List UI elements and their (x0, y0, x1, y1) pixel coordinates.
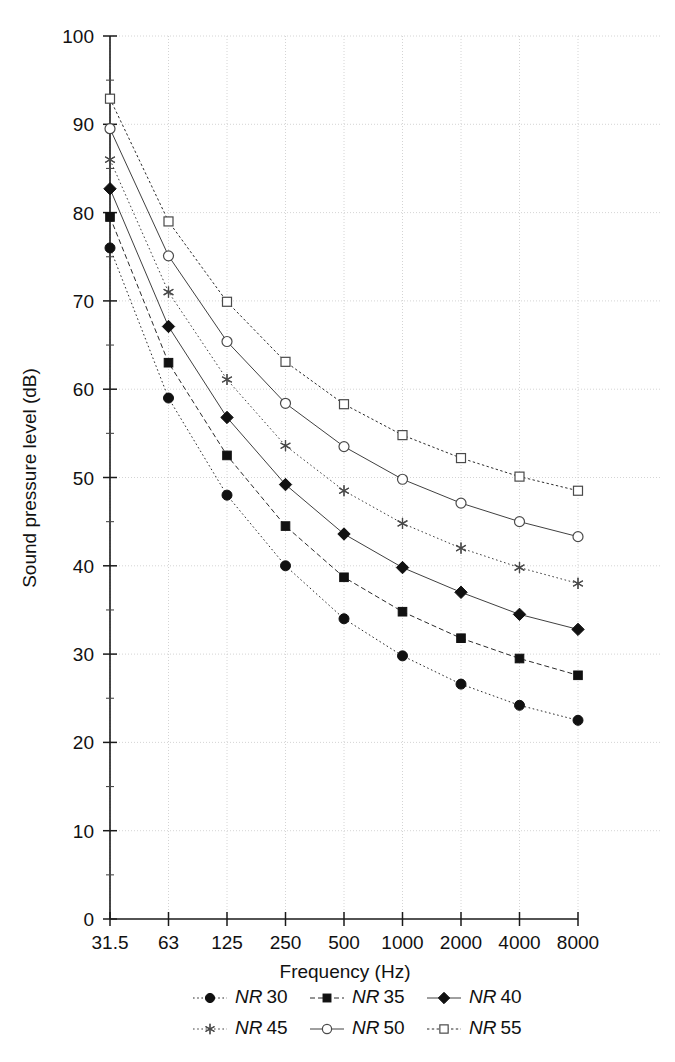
x-tick-label: 500 (328, 932, 360, 953)
data-point-marker (222, 374, 232, 385)
y-tick-label: 70 (73, 291, 94, 312)
data-point-marker (104, 183, 116, 195)
data-point-marker (322, 1024, 331, 1033)
x-tick-label: 63 (158, 932, 179, 953)
data-point-marker (340, 400, 349, 409)
data-point-marker (515, 700, 525, 710)
x-axis-title: Frequency (Hz) (280, 961, 411, 982)
data-point-marker (105, 124, 115, 134)
data-point-marker (457, 634, 466, 643)
legend-label: NR35 (352, 986, 405, 1007)
legend-item-nr-50[interactable]: NR50 (310, 1017, 405, 1038)
x-tick-label: 8000 (557, 932, 599, 953)
data-point-marker (573, 532, 583, 542)
x-tick-label: 1000 (381, 932, 423, 953)
y-axis-title: Sound pressure level (dB) (19, 368, 40, 588)
data-point-marker (398, 474, 408, 484)
legend-label-value: 40 (500, 986, 521, 1007)
legend-label-prefix: NR (235, 1017, 263, 1038)
data-point-marker (573, 715, 583, 725)
legend-item-nr-30[interactable]: NR30 (193, 986, 288, 1007)
legend-label-prefix: NR (469, 1017, 497, 1038)
data-point-marker (398, 651, 408, 661)
data-point-marker (105, 154, 115, 165)
x-tick-label: 31.5 (92, 932, 129, 953)
data-point-marker (281, 561, 291, 571)
data-point-marker (339, 485, 349, 496)
legend-label: NR30 (235, 986, 288, 1007)
legend-label-prefix: NR (352, 1017, 380, 1038)
gridlines-group (110, 36, 660, 919)
y-tick-label: 0 (83, 909, 94, 930)
chart-canvas: 0102030405060708090100 31.56312525050010… (0, 0, 675, 1062)
data-point-marker (106, 94, 115, 103)
data-point-marker (205, 993, 214, 1002)
legend-label-value: 55 (500, 1017, 521, 1038)
data-point-marker (222, 337, 232, 347)
legend-label: NR40 (469, 986, 522, 1007)
data-point-marker (222, 490, 232, 500)
legend-label: NR45 (235, 1017, 288, 1038)
legend-label-prefix: NR (235, 986, 263, 1007)
data-point-marker (573, 578, 583, 589)
y-tick-label: 40 (73, 556, 94, 577)
legend-label-value: 35 (383, 986, 404, 1007)
x-tick-labels-group: 31.5631252505001000200040008000 (92, 932, 600, 953)
data-point-marker (339, 614, 349, 624)
data-point-marker (164, 217, 173, 226)
data-point-marker (457, 454, 466, 463)
data-point-marker (572, 623, 584, 635)
data-point-marker (398, 431, 407, 440)
data-point-marker (440, 1025, 448, 1033)
data-point-marker (105, 243, 115, 253)
data-point-marker (164, 358, 173, 367)
data-point-marker (398, 518, 408, 529)
y-tick-labels-group: 0102030405060708090100 (62, 26, 94, 930)
data-point-marker (223, 297, 232, 306)
data-point-marker (396, 561, 408, 573)
y-tick-label: 60 (73, 379, 94, 400)
data-point-marker (339, 442, 349, 452)
data-point-marker (515, 517, 525, 527)
data-point-marker (106, 213, 115, 222)
data-point-marker (281, 357, 290, 366)
nr-curves-chart: 0102030405060708090100 31.56312525050010… (0, 0, 675, 1062)
y-tick-label: 100 (62, 26, 94, 47)
data-point-marker (323, 994, 331, 1002)
legend-item-nr-35[interactable]: NR35 (310, 986, 405, 1007)
data-point-marker (164, 393, 174, 403)
data-point-marker (456, 543, 466, 554)
x-tick-label: 125 (211, 932, 243, 953)
data-point-marker (164, 286, 174, 297)
legend-item-nr-45[interactable]: NR45 (193, 1017, 288, 1038)
data-point-marker (513, 608, 525, 620)
y-tick-label: 20 (73, 732, 94, 753)
data-point-marker (574, 486, 583, 495)
y-tick-label: 50 (73, 468, 94, 489)
data-point-marker (340, 573, 349, 582)
y-tick-label: 10 (73, 821, 94, 842)
legend-label: NR50 (352, 1017, 405, 1038)
data-point-marker (281, 398, 291, 408)
legend-item-nr-55[interactable]: NR55 (427, 1017, 522, 1038)
chart-legend: NR30NR35NR40NR45NR50NR55 (193, 986, 522, 1038)
data-point-marker (438, 992, 449, 1003)
data-point-marker (455, 586, 467, 598)
legend-label-value: 50 (383, 1017, 404, 1038)
data-point-marker (515, 654, 524, 663)
data-point-marker (164, 251, 174, 261)
x-tick-label: 4000 (498, 932, 540, 953)
y-tick-label: 90 (73, 114, 94, 135)
data-point-marker (515, 472, 524, 481)
y-tick-label: 30 (73, 644, 94, 665)
legend-item-nr-40[interactable]: NR40 (427, 986, 522, 1007)
y-tick-label: 80 (73, 203, 94, 224)
data-point-marker (398, 607, 407, 616)
legend-label-value: 30 (266, 986, 287, 1007)
data-point-marker (456, 679, 466, 689)
data-point-marker (162, 320, 174, 332)
tick-marks-group (103, 36, 578, 926)
data-point-marker (456, 498, 466, 508)
x-tick-label: 2000 (440, 932, 482, 953)
legend-label-prefix: NR (469, 986, 497, 1007)
